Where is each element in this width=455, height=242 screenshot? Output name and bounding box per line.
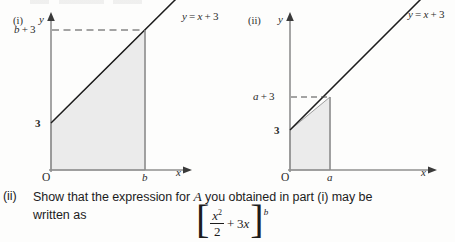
figure-ii-diagram: (ii) y x O 3 a + 3 a y = x + 3 bbox=[228, 0, 455, 188]
question-text-after: you obtained in part (i) may be bbox=[202, 190, 373, 204]
figure-ii-x-tick-label: a bbox=[327, 172, 333, 183]
figure-i-origin-label: O bbox=[42, 172, 50, 184]
y-axis-arrowhead bbox=[47, 12, 55, 21]
figure-ii-y-axis-label: y bbox=[278, 14, 283, 25]
figure-i-x-tick-label: b bbox=[142, 172, 148, 183]
figure-ii-upper-y-label: a + 3 bbox=[253, 91, 275, 102]
figure-ii-x-axis-label: x bbox=[421, 167, 426, 178]
expression-body: x2 2 + 3x bbox=[210, 206, 249, 238]
upper-y-var: a bbox=[253, 90, 259, 102]
question-line-2: written as bbox=[33, 208, 87, 222]
fraction-numerator: x2 bbox=[210, 209, 224, 223]
bracket-right-icon: ] bbox=[250, 206, 263, 235]
expression-addend: + 3x bbox=[225, 216, 249, 232]
figure-i-line-label: y = x + 3 bbox=[182, 11, 219, 22]
math-expression: [ x2 2 + 3x ] b bbox=[196, 206, 268, 238]
line-y-equals-x-plus-3 bbox=[290, 0, 421, 130]
expression-upper-limit: b bbox=[264, 207, 269, 217]
shaded-region bbox=[51, 30, 145, 170]
figure-i-x-axis-label: x bbox=[176, 167, 181, 178]
figure-ii-marker: (ii) bbox=[248, 16, 261, 27]
question-marker: (ii) bbox=[3, 189, 16, 203]
exponent-2: 2 bbox=[218, 208, 222, 217]
figure-i-diagram: (i) y x O 3 b + 3 b y = x + 3 bbox=[0, 0, 228, 188]
bracket-left-icon: [ bbox=[196, 206, 209, 235]
figure-ii-line-label: y = x + 3 bbox=[408, 9, 445, 20]
fraction-denominator: 2 bbox=[214, 224, 221, 238]
x-axis-arrowhead bbox=[428, 166, 437, 173]
figure-i-upper-y-label: b + 3 bbox=[14, 24, 36, 35]
shaded-region bbox=[290, 97, 330, 170]
upper-y-var: b bbox=[14, 23, 20, 35]
figure-i-y-intercept-label: 3 bbox=[35, 118, 41, 129]
question-text-before: Show that the expression for bbox=[33, 190, 193, 204]
x-axis-arrowhead bbox=[183, 166, 192, 173]
figure-ii-origin-label: O bbox=[281, 172, 289, 184]
y-axis-arrowhead bbox=[286, 12, 294, 21]
worksheet-page: (i) y x O 3 b + 3 b y = x + 3 (ii) bbox=[0, 0, 455, 242]
figure-i-y-axis-label: y bbox=[39, 14, 44, 25]
fraction-x-squared-over-2: x2 2 bbox=[210, 209, 224, 238]
figure-ii-y-intercept-label: 3 bbox=[274, 125, 280, 136]
